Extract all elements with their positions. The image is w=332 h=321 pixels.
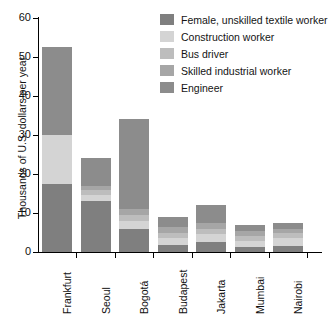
bar-segment [235,225,265,231]
bar-segment [273,229,303,233]
x-axis-label-jakarta: Jakarta [215,280,227,314]
legend-item-label: Female, unskilled textile worker [181,14,327,26]
legend-item: Skilled industrial worker [160,62,327,79]
y-axis-tick-label: 60 [0,11,31,23]
bar-segment [119,209,149,215]
x-axis-tick [269,253,270,258]
bar-segment [119,119,149,209]
bar-jakarta [196,205,226,252]
x-axis-label-nairobi: Nairobi [292,281,304,314]
bar-segment [158,233,188,239]
bar-segment [81,186,111,190]
bar-segment [273,223,303,229]
bar-segment [158,227,188,233]
x-axis-tick [230,253,231,258]
bar-frankfurt [42,47,72,252]
bar-segment [196,205,226,223]
bar-seoul [81,158,111,252]
y-axis-tick [33,252,39,253]
bar-segment [196,223,226,229]
x-axis-label-bogot: Bogotá [138,281,150,314]
x-axis-label-seoul: Seoul [100,287,112,314]
x-axis-line [38,252,322,253]
legend-item-label: Skilled industrial worker [181,65,291,77]
bar-segment [196,229,226,235]
bar-mumbai [235,225,265,252]
bar-segment [196,234,226,242]
bar-segment [119,229,149,252]
x-axis-label-budapest: Budapest [177,270,189,314]
x-axis-label-mumbai: Mumbai [254,277,266,314]
y-axis-tick-label: 40 [0,89,31,101]
bar-segment [81,158,111,185]
chart-legend: Female, unskilled textile workerConstruc… [160,11,327,96]
bar-segment [42,135,72,184]
x-axis-tick [153,253,154,258]
y-axis-tick-label: 20 [0,167,31,179]
y-axis-tick-label: 10 [0,206,31,218]
legend-item: Construction worker [160,28,327,45]
bar-bogot [119,119,149,252]
bar-segment [196,242,226,252]
bar-segment [119,221,149,229]
bar-segment [42,184,72,252]
bar-segment [273,238,303,246]
legend-item-label: Bus driver [181,48,228,60]
legend-swatch-icon [160,31,174,42]
bar-segment [273,246,303,252]
bar-segment [273,233,303,239]
x-axis-tick [76,253,77,258]
bar-segment [158,217,188,227]
bar-segment [81,195,111,201]
legend-swatch-icon [160,65,174,76]
legend-item-label: Engineer [181,82,223,94]
bar-segment [235,247,265,252]
bar-segment [158,238,188,245]
y-axis-tick-label: 30 [0,128,31,140]
legend-item-label: Construction worker [181,31,274,43]
y-axis-tick-label: 0 [0,245,31,257]
x-axis-tick [115,253,116,258]
legend-item: Bus driver [160,45,327,62]
x-axis-tick [192,253,193,258]
legend-item: Female, unskilled textile worker [160,11,327,28]
bar-segment [235,231,265,236]
bar-segment [81,201,111,252]
bar-segment [158,245,188,252]
legend-swatch-icon [160,48,174,59]
stacked-bar-chart: Thousands of U.S. dollars per year 01020… [0,0,332,321]
y-axis-tick-label: 50 [0,50,31,62]
x-axis-tick [307,253,308,258]
legend-item: Engineer [160,79,327,96]
bar-nairobi [273,223,303,252]
bar-segment [235,236,265,241]
legend-swatch-icon [160,82,174,93]
legend-swatch-icon [160,14,174,25]
bar-segment [81,190,111,196]
bar-segment [42,47,72,135]
bar-segment [119,215,149,221]
x-axis-label-frankfurt: Frankfurt [61,272,73,314]
bar-budapest [158,217,188,252]
bar-segment [235,241,265,247]
